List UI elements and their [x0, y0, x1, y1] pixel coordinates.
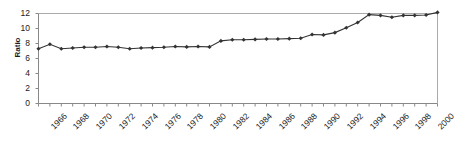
data-series-markers [36, 10, 439, 51]
plot-frame [39, 14, 438, 104]
data-series-line [39, 12, 438, 48]
